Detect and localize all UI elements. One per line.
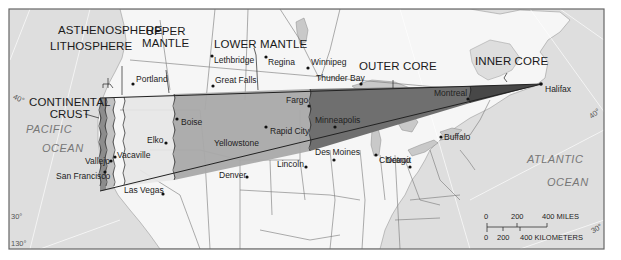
label-atlantic-ocean-line2: OCEAN — [547, 177, 589, 188]
city-denver: Denver — [219, 171, 246, 180]
label-lithosphere: LITHOSPHERE — [50, 41, 132, 53]
city-regina: Regina — [268, 58, 295, 67]
city-lethbridge: Lethbridge — [214, 56, 254, 65]
label-pacific-ocean-line1: PACIFIC — [26, 124, 72, 135]
city-des-moines: Des Moines — [315, 148, 360, 157]
city-portland: Portland — [136, 75, 168, 84]
city-minneapolis: Minneapolis — [315, 116, 360, 125]
scale-miles-200: 200 — [511, 213, 524, 221]
label-outer-core: OUTER CORE — [359, 61, 437, 73]
city-san-francisco: San Francisco — [56, 172, 110, 181]
map-canvas — [0, 0, 621, 260]
label-atlantic-ocean-line1: ATLANTIC — [527, 154, 583, 165]
label-pacific-ocean-line2: OCEAN — [42, 143, 84, 154]
label-upper-mantle-line1: UPPER — [146, 25, 186, 37]
city-vacaville: Vacaville — [117, 151, 150, 160]
label-lower-mantle: LOWER MANTLE — [214, 39, 307, 51]
city-detroit: Detroit — [386, 156, 411, 165]
scale-miles-400: 400 MILES — [542, 213, 579, 221]
city-fargo: Fargo — [286, 96, 308, 105]
scale-km-200: 200 — [497, 234, 510, 242]
label-inner-core: INNER CORE — [475, 56, 548, 68]
city-thunder-bay: Thunder Bay — [316, 74, 365, 83]
city-rapid-city: Rapid City — [270, 127, 309, 136]
scale-km-400: 400 KILOMETERS — [520, 234, 583, 242]
city-great-falls: Great Falls — [215, 76, 257, 85]
city-vallejo: Vallejo — [85, 157, 110, 166]
city-buffalo: Buffalo — [444, 133, 470, 142]
label-continental-crust-line2: CRUST — [50, 108, 90, 120]
label-continental-crust-line1: CONTINENTAL — [29, 96, 110, 108]
label-continental-crust: CONTINENTAL CRUST — [29, 96, 110, 120]
city-yellowstone: Yellowstone — [214, 139, 259, 148]
city-las-vegas: Las Vegas — [124, 186, 164, 195]
city-lincoln: Lincoln — [277, 160, 304, 169]
label-upper-mantle: UPPER MANTLE — [142, 25, 189, 49]
city-boise: Boise — [181, 118, 202, 127]
city-elko: Elko — [147, 136, 164, 145]
city-halifax: Halifax — [545, 85, 571, 94]
city-montreal: Montreal — [434, 89, 467, 98]
label-upper-mantle-line2: MANTLE — [142, 37, 189, 49]
label-lat-30-left: 30° — [11, 213, 22, 221]
label-lon-130: 130° — [11, 240, 27, 248]
scale-km-0: 0 — [484, 234, 488, 242]
city-winnipeg: Winnipeg — [311, 58, 346, 67]
scale-miles-0: 0 — [484, 213, 488, 221]
